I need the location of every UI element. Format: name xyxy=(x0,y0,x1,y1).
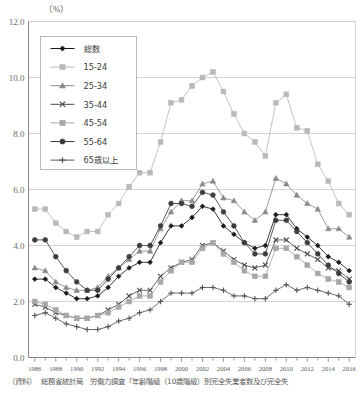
svg-text:1990: 1990 xyxy=(70,365,84,372)
x-axis-tick-labels: 1986198819901992199419961998200020022004… xyxy=(28,365,356,372)
legend-label: 65歳以上 xyxy=(84,155,118,165)
svg-text:2.0: 2.0 xyxy=(13,297,25,307)
svg-text:1996: 1996 xyxy=(133,365,147,372)
svg-text:2016: 2016 xyxy=(343,365,357,372)
series-7 xyxy=(32,282,352,332)
chart-plot-area: 0.02.04.06.08.010.012.0 1986198819901992… xyxy=(0,0,360,400)
svg-text:1994: 1994 xyxy=(112,365,126,372)
svg-text:8.0: 8.0 xyxy=(13,129,25,139)
svg-text:2012: 2012 xyxy=(301,365,314,372)
legend-label: 15-24 xyxy=(84,62,108,72)
svg-text:2014: 2014 xyxy=(322,365,336,372)
svg-text:2000: 2000 xyxy=(175,365,189,372)
svg-text:0.0: 0.0 xyxy=(13,353,25,363)
series-6 xyxy=(32,190,351,293)
svg-text:10.0: 10.0 xyxy=(9,73,25,83)
svg-text:2002: 2002 xyxy=(196,365,209,372)
y-axis-tick-labels: 0.02.04.06.08.010.012.0 xyxy=(9,17,25,363)
svg-text:2006: 2006 xyxy=(238,365,252,372)
svg-text:1992: 1992 xyxy=(91,365,104,372)
x-axis-ticks xyxy=(35,358,349,363)
chart-legend: 総数15-2425-3435-4445-5455-6465歳以上 xyxy=(41,37,137,170)
series-1 xyxy=(32,204,351,301)
legend-label: 35-44 xyxy=(84,100,108,110)
legend-label: 55-64 xyxy=(84,137,108,147)
svg-text:4.0: 4.0 xyxy=(13,241,25,251)
svg-text:12.0: 12.0 xyxy=(9,17,25,27)
source-note: （資料）総務省統計局 労働力調査「年齢階級（10歳階級）別完全失業者数及び完全失 xyxy=(8,377,358,386)
source-label: （資料） xyxy=(8,377,36,386)
svg-text:2004: 2004 xyxy=(217,365,231,372)
source-body: 総務省統計局 労働力調査「年齢階級（10歳階級）別完全失業者数及び完全失 xyxy=(41,377,288,386)
unemployment-rate-chart: （%） 0.02.04.06.08.010.012.0 198619881990… xyxy=(0,0,360,400)
series-4 xyxy=(32,238,351,321)
svg-text:1986: 1986 xyxy=(28,365,42,372)
svg-text:1988: 1988 xyxy=(49,365,63,372)
svg-text:2010: 2010 xyxy=(280,365,294,372)
legend-label: 45-54 xyxy=(84,118,108,128)
svg-text:1998: 1998 xyxy=(154,365,168,372)
legend-label: 25-34 xyxy=(84,81,108,91)
svg-text:6.0: 6.0 xyxy=(13,185,25,195)
legend-label: 総数 xyxy=(84,44,100,54)
svg-text:2008: 2008 xyxy=(259,365,273,372)
